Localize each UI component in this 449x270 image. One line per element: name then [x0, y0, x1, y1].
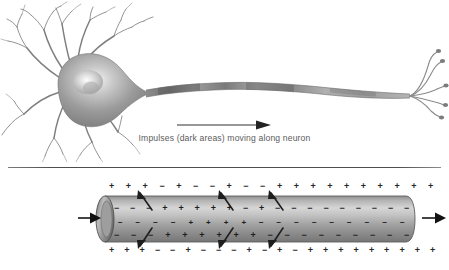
- charge-inner-mid-2: −: [153, 218, 158, 227]
- charge-inner-bottom-12: −: [319, 231, 324, 240]
- axon: [146, 82, 410, 98]
- charge-inner-top-16: −: [372, 204, 377, 213]
- charge-inner-bottom-7: +: [233, 231, 238, 240]
- charge-inner-top-12: −: [307, 204, 312, 213]
- charge-inner-top-18: −: [404, 204, 409, 213]
- charge-outer-bottom-2: +: [140, 246, 145, 255]
- charge-inner-top-7: +: [227, 204, 232, 213]
- charge-inner-top-13: −: [323, 204, 328, 213]
- charge-inner-bottom-0: −: [114, 231, 119, 240]
- charge-outer-bottom-3: −: [155, 246, 160, 255]
- charge-inner-bottom-4: +: [182, 231, 187, 240]
- charge-outer-bottom-11: +: [277, 246, 282, 255]
- charge-inner-bottom-9: −: [268, 231, 273, 240]
- charge-inner-top-2: −: [146, 204, 151, 213]
- charge-outer-bottom-7: −: [216, 246, 221, 255]
- charge-inner-bottom-10: −: [285, 231, 290, 240]
- charge-outer-top-9: −: [260, 182, 265, 191]
- charge-inner-mid-14: −: [365, 218, 370, 227]
- charge-outer-top-12: +: [311, 182, 316, 191]
- top-panel-neuron-overview: Impulses (dark areas) moving along neuro…: [0, 0, 449, 162]
- charge-outer-top-2: +: [143, 182, 148, 191]
- charge-outer-top-17: +: [394, 182, 399, 191]
- charge-outer-bottom-17: +: [369, 246, 374, 255]
- charge-inner-top-11: −: [291, 204, 296, 213]
- charge-outer-bottom-1: +: [124, 246, 129, 255]
- charge-inner-mid-1: −: [136, 218, 141, 227]
- charge-outer-top-0: +: [109, 182, 114, 191]
- charge-outer-top-16: +: [378, 182, 383, 191]
- impulse-direction-arrow: [176, 119, 272, 133]
- charge-outer-top-8: −: [243, 182, 248, 191]
- charge-outer-top-5: −: [193, 182, 198, 191]
- charge-inner-mid-9: −: [277, 218, 282, 227]
- charge-outer-bottom-9: +: [247, 246, 252, 255]
- charge-outer-bottom-21: +: [430, 246, 435, 255]
- axon-terminals: [410, 49, 449, 120]
- charge-outer-bottom-15: +: [338, 246, 343, 255]
- charge-inner-bottom-2: −: [148, 231, 153, 240]
- charge-outer-top-7: +: [227, 182, 232, 191]
- charge-outer-bottom-13: +: [308, 246, 313, 255]
- charge-inner-mid-0: −: [118, 218, 123, 227]
- charge-inner-top-4: +: [178, 204, 183, 213]
- charge-inner-mid-6: +: [224, 218, 229, 227]
- charge-inner-bottom-14: −: [353, 231, 358, 240]
- charge-inner-bottom-5: +: [199, 231, 204, 240]
- neuron-impulse-figure: Impulses (dark areas) moving along neuro…: [0, 0, 449, 270]
- charge-outer-bottom-8: −: [231, 246, 236, 255]
- charge-outer-top-15: +: [361, 182, 366, 191]
- charge-inner-top-15: −: [356, 204, 361, 213]
- charge-inner-top-10: −: [275, 204, 280, 213]
- charge-outer-bottom-14: +: [323, 246, 328, 255]
- charge-inner-mid-7: +: [241, 218, 246, 227]
- charge-outer-bottom-18: +: [384, 246, 389, 255]
- charge-outer-bottom-5: +: [185, 246, 190, 255]
- charge-inner-bottom-11: −: [302, 231, 307, 240]
- charge-outer-bottom-6: −: [201, 246, 206, 255]
- top-panel-caption: Impulses (dark areas) moving along neuro…: [0, 133, 449, 143]
- charge-inner-mid-11: −: [312, 218, 317, 227]
- charge-outer-bottom-20: +: [415, 246, 420, 255]
- charge-inner-top-5: +: [195, 204, 200, 213]
- charge-inner-bottom-16: −: [387, 231, 392, 240]
- charge-inner-top-14: −: [340, 204, 345, 213]
- charge-outer-top-4: +: [176, 182, 181, 191]
- charge-inner-top-9: +: [259, 204, 264, 213]
- charge-inner-top-3: +: [162, 204, 167, 213]
- charge-outer-top-1: +: [126, 182, 131, 191]
- charge-inner-bottom-3: +: [165, 231, 170, 240]
- charge-outer-top-10: +: [277, 182, 282, 191]
- charge-inner-top-8: −: [243, 204, 248, 213]
- charge-inner-bottom-6: +: [216, 231, 221, 240]
- charge-inner-top-0: −: [114, 204, 119, 213]
- impulse-exit-arrow: [422, 213, 446, 224]
- charge-outer-top-19: +: [428, 182, 433, 191]
- charge-outer-top-3: −: [159, 182, 164, 191]
- charge-inner-mid-10: −: [294, 218, 299, 227]
- cell-body: [58, 54, 150, 127]
- charge-inner-mid-13: −: [347, 218, 352, 227]
- charge-inner-mid-4: +: [189, 218, 194, 227]
- charge-outer-top-11: +: [294, 182, 299, 191]
- charge-outer-top-18: +: [411, 182, 416, 191]
- bottom-panel-axon-detail: Direction of impulse +++−+−−+−−+++++++++…: [0, 168, 449, 270]
- charge-outer-bottom-4: −: [170, 246, 175, 255]
- charge-outer-bottom-12: −: [292, 246, 297, 255]
- charge-outer-top-6: −: [210, 182, 215, 191]
- charge-inner-top-1: −: [130, 204, 135, 213]
- charge-inner-bottom-1: −: [131, 231, 136, 240]
- charge-outer-bottom-16: +: [354, 246, 359, 255]
- charge-inner-bottom-15: −: [370, 231, 375, 240]
- charge-outer-bottom-10: −: [262, 246, 267, 255]
- charge-outer-top-13: +: [327, 182, 332, 191]
- charge-outer-bottom-0: +: [109, 246, 114, 255]
- charge-outer-top-14: +: [344, 182, 349, 191]
- charge-inner-bottom-8: +: [251, 231, 256, 240]
- charge-inner-mid-15: −: [382, 218, 387, 227]
- charge-inner-mid-8: −: [259, 218, 264, 227]
- charge-inner-mid-16: −: [400, 218, 405, 227]
- charge-inner-top-17: −: [388, 204, 393, 213]
- charge-inner-mid-12: −: [330, 218, 335, 227]
- charge-inner-mid-5: +: [206, 218, 211, 227]
